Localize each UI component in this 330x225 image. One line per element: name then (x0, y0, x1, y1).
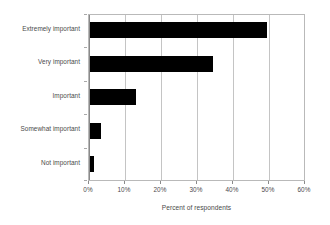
x-tick-label-30: 30% (183, 186, 209, 194)
y-tick-1 (84, 47, 87, 48)
y-tick-4 (84, 148, 87, 149)
x-tick-0 (88, 181, 89, 184)
bar-chart: Extremely important Very important Impor… (0, 0, 330, 225)
category-label-not-important: Not important (0, 159, 80, 166)
plot-area (88, 14, 305, 181)
x-tick-50 (268, 181, 269, 184)
category-label-somewhat-important: Somewhat important (0, 125, 80, 132)
bar-important (90, 89, 136, 105)
x-tick-60 (304, 181, 305, 184)
x-tick-label-60: 60% (291, 186, 317, 194)
x-tick-10 (124, 181, 125, 184)
bar-very-important (90, 56, 213, 72)
x-tick-label-20: 20% (147, 186, 173, 194)
gridline-20 (161, 15, 162, 180)
category-axis-labels: Extremely important Very important Impor… (0, 14, 84, 181)
x-tick-40 (232, 181, 233, 184)
bar-not-important (90, 156, 94, 172)
gridline-30 (197, 15, 198, 180)
value-axis-ticks (88, 181, 305, 185)
y-tick-2 (84, 81, 87, 82)
y-tick-5 (84, 180, 87, 181)
x-tick-label-40: 40% (219, 186, 245, 194)
x-tick-label-50: 50% (255, 186, 281, 194)
gridline-40 (233, 15, 234, 180)
x-axis-title: Percent of respondents (88, 204, 305, 212)
gridline-50 (269, 15, 270, 180)
category-label-extremely-important: Extremely important (0, 25, 80, 32)
x-tick-20 (160, 181, 161, 184)
value-axis-labels: 0% 10% 20% 30% 40% 50% 60% (0, 186, 330, 196)
x-tick-30 (196, 181, 197, 184)
y-tick-3 (84, 114, 87, 115)
x-tick-label-10: 10% (111, 186, 137, 194)
bar-extremely-important (90, 22, 267, 38)
x-tick-label-0: 0% (75, 186, 101, 194)
category-label-very-important: Very important (0, 58, 80, 65)
y-tick-0 (84, 14, 87, 15)
bar-somewhat-important (90, 123, 101, 139)
category-label-important: Important (0, 92, 80, 99)
